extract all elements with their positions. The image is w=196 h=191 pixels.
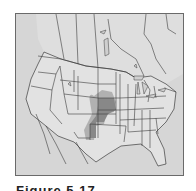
range-map: [15, 13, 184, 176]
north-america-map: [16, 14, 183, 175]
figure-caption: Figure 5.17: [16, 184, 96, 191]
